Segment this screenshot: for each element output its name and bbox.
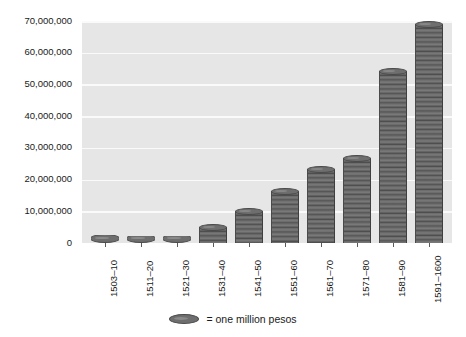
bar-1561-70 bbox=[307, 165, 335, 243]
x-tick-mark bbox=[285, 243, 286, 247]
coin-stack bbox=[415, 24, 443, 243]
coin-stack bbox=[271, 191, 299, 243]
x-tick-mark bbox=[249, 243, 250, 247]
coin-stack bbox=[343, 158, 371, 243]
y-tick-label: 0 bbox=[67, 238, 72, 248]
x-tick-mark bbox=[321, 243, 322, 247]
coin-icon bbox=[169, 314, 199, 324]
coin-disc bbox=[91, 235, 119, 243]
bar-1541-50 bbox=[235, 207, 263, 243]
x-tick-label-1591-1600: 1591–1600 bbox=[433, 255, 443, 303]
bar-series bbox=[82, 21, 452, 243]
coin-top-disc bbox=[343, 155, 371, 162]
coin-top-disc bbox=[199, 224, 227, 231]
x-tick-label-1531-40: 1531–40 bbox=[217, 260, 227, 297]
y-tick-label: 40,000,000 bbox=[24, 111, 72, 121]
x-tick-mark bbox=[105, 243, 106, 247]
y-tick-label: 10,000,000 bbox=[24, 206, 72, 216]
coin-top-disc bbox=[307, 166, 335, 173]
x-axis: 1503–10 1511–20 1521–30 1531–40 1541–50 … bbox=[82, 243, 452, 293]
x-tick-label-1551-60: 1551–60 bbox=[289, 260, 299, 297]
bar-1581-90 bbox=[379, 67, 407, 243]
x-tick-label-1503-10: 1503–10 bbox=[109, 260, 119, 297]
y-tick-label: 30,000,000 bbox=[24, 142, 72, 152]
x-tick-label-1561-70: 1561–70 bbox=[325, 260, 335, 297]
bar-1551-60 bbox=[271, 187, 299, 243]
y-axis: 70,000,000 60,000,000 50,000,000 40,000,… bbox=[0, 0, 78, 260]
coin-top-disc bbox=[415, 21, 443, 28]
x-tick-mark bbox=[357, 243, 358, 247]
coin-top-disc bbox=[235, 208, 263, 215]
x-tick-label-1581-90: 1581–90 bbox=[397, 260, 407, 297]
x-tick-mark bbox=[141, 243, 142, 247]
x-tick-mark bbox=[177, 243, 178, 247]
coin-top-disc bbox=[271, 188, 299, 195]
x-tick-label-1541-50: 1541–50 bbox=[253, 260, 263, 297]
x-tick-mark bbox=[429, 243, 430, 247]
bar-1531-40 bbox=[199, 223, 227, 243]
coin-stack bbox=[307, 169, 335, 243]
bar-1571-80 bbox=[343, 154, 371, 243]
coin-stack bbox=[235, 211, 263, 243]
bar-1503-10 bbox=[91, 235, 119, 243]
legend: = one million pesos bbox=[0, 308, 466, 330]
x-tick-label-1521-30: 1521–30 bbox=[181, 260, 191, 297]
y-tick-label: 50,000,000 bbox=[24, 79, 72, 89]
x-tick-label-1571-80: 1571–80 bbox=[361, 260, 371, 297]
y-tick-label: 20,000,000 bbox=[24, 174, 72, 184]
coin-top-disc bbox=[379, 68, 407, 75]
y-tick-label: 60,000,000 bbox=[24, 47, 72, 57]
x-tick-mark bbox=[393, 243, 394, 247]
bar-1591-1600 bbox=[415, 21, 443, 243]
legend-label: = one million pesos bbox=[206, 313, 296, 325]
y-tick-label: 70,000,000 bbox=[24, 16, 72, 26]
coin-disc bbox=[163, 236, 191, 243]
bar-1521-30 bbox=[163, 236, 191, 243]
chart-container: 70,000,000 60,000,000 50,000,000 40,000,… bbox=[0, 0, 466, 337]
x-tick-label-1511-20: 1511–20 bbox=[145, 261, 155, 297]
x-tick-mark bbox=[213, 243, 214, 247]
coin-disc bbox=[127, 236, 155, 243]
coin-stack bbox=[199, 227, 227, 243]
coin-stack bbox=[379, 71, 407, 243]
bar-1511-20 bbox=[127, 236, 155, 243]
